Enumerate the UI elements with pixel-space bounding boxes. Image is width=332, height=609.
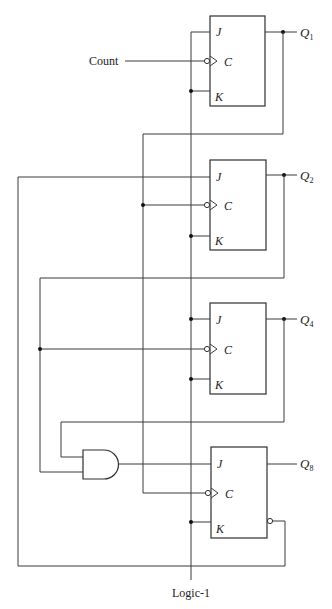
ff4-c-label: C (224, 343, 233, 357)
ff2-clock-inversion-bubble-icon (204, 202, 209, 207)
junction-dot-icon (141, 203, 145, 207)
ff1-j-label: J (216, 25, 222, 39)
q8-label: Q8 (300, 456, 313, 473)
ff1-clock-inversion-bubble-icon (204, 58, 209, 63)
junction-dot-icon (189, 377, 193, 381)
ff4-j-label: J (216, 313, 222, 327)
ff8-q-bar-bubble-icon (267, 518, 272, 523)
flip-flop-2: J C K (204, 160, 266, 250)
q4-label: Q4 (300, 312, 313, 329)
junction-dot-icon (38, 347, 42, 351)
flip-flop-1: J C K (204, 16, 265, 106)
flip-flop-8: J C K (205, 447, 272, 538)
ff8-c-label: C (225, 487, 234, 501)
ff8-j-label: J (217, 457, 223, 471)
count-label: Count (89, 54, 119, 68)
logic-1-label: Logic-1 (172, 586, 210, 600)
ff4-k-label: K (214, 378, 224, 392)
ff8-clock-inversion-bubble-icon (205, 490, 210, 495)
and-gate-icon (83, 450, 118, 479)
logic-1-rail (189, 32, 211, 580)
q2-label: Q2 (300, 168, 313, 185)
ff8-k-label: K (215, 522, 225, 536)
ff2-j-label: J (216, 170, 222, 184)
ff1-c-label: C (224, 55, 233, 69)
junction-dot-icon (189, 520, 193, 524)
ff1-k-label: K (214, 90, 224, 104)
ff4-clock-inversion-bubble-icon (204, 346, 209, 351)
junction-dot-icon (189, 89, 193, 93)
q1-label: Q1 (300, 25, 313, 42)
junction-dot-icon (189, 317, 193, 321)
flip-flop-4: J C K (204, 303, 266, 394)
counter-circuit-diagram: J C K J C K J C K J C K (0, 0, 332, 609)
ff2-c-label: C (224, 199, 233, 213)
junction-dot-icon (189, 234, 193, 238)
ff2-k-label: K (214, 234, 224, 248)
